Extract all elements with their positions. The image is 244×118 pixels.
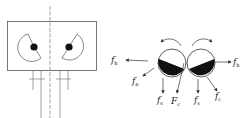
label-right-fc: fc <box>214 91 221 102</box>
arrow-left-fh <box>126 60 148 61</box>
label-center-Fc: Fc <box>170 96 180 107</box>
label-left-fn: fn <box>131 76 139 87</box>
left-panel <box>8 6 97 118</box>
right-eccentric-mass <box>187 49 215 77</box>
right-rotor-shaft <box>65 43 72 50</box>
arrow-right-fc <box>207 77 217 91</box>
label-right-fs: fs <box>193 95 200 106</box>
exciter-diagram: fh fn fs Fc fs fc fh <box>0 0 244 118</box>
right-panel: fh fn fs Fc fs fc fh <box>110 39 240 107</box>
right-rotor-sector <box>62 34 84 60</box>
right-rotation-arrow <box>192 39 212 46</box>
label-left-fh: fh <box>110 55 118 66</box>
left-rotation-arrow <box>161 39 181 46</box>
label-right-fh: fh <box>232 57 240 68</box>
label-left-fs: fs <box>156 95 163 106</box>
arrow-left-fn <box>143 68 154 76</box>
left-rotor-shaft <box>30 43 37 50</box>
